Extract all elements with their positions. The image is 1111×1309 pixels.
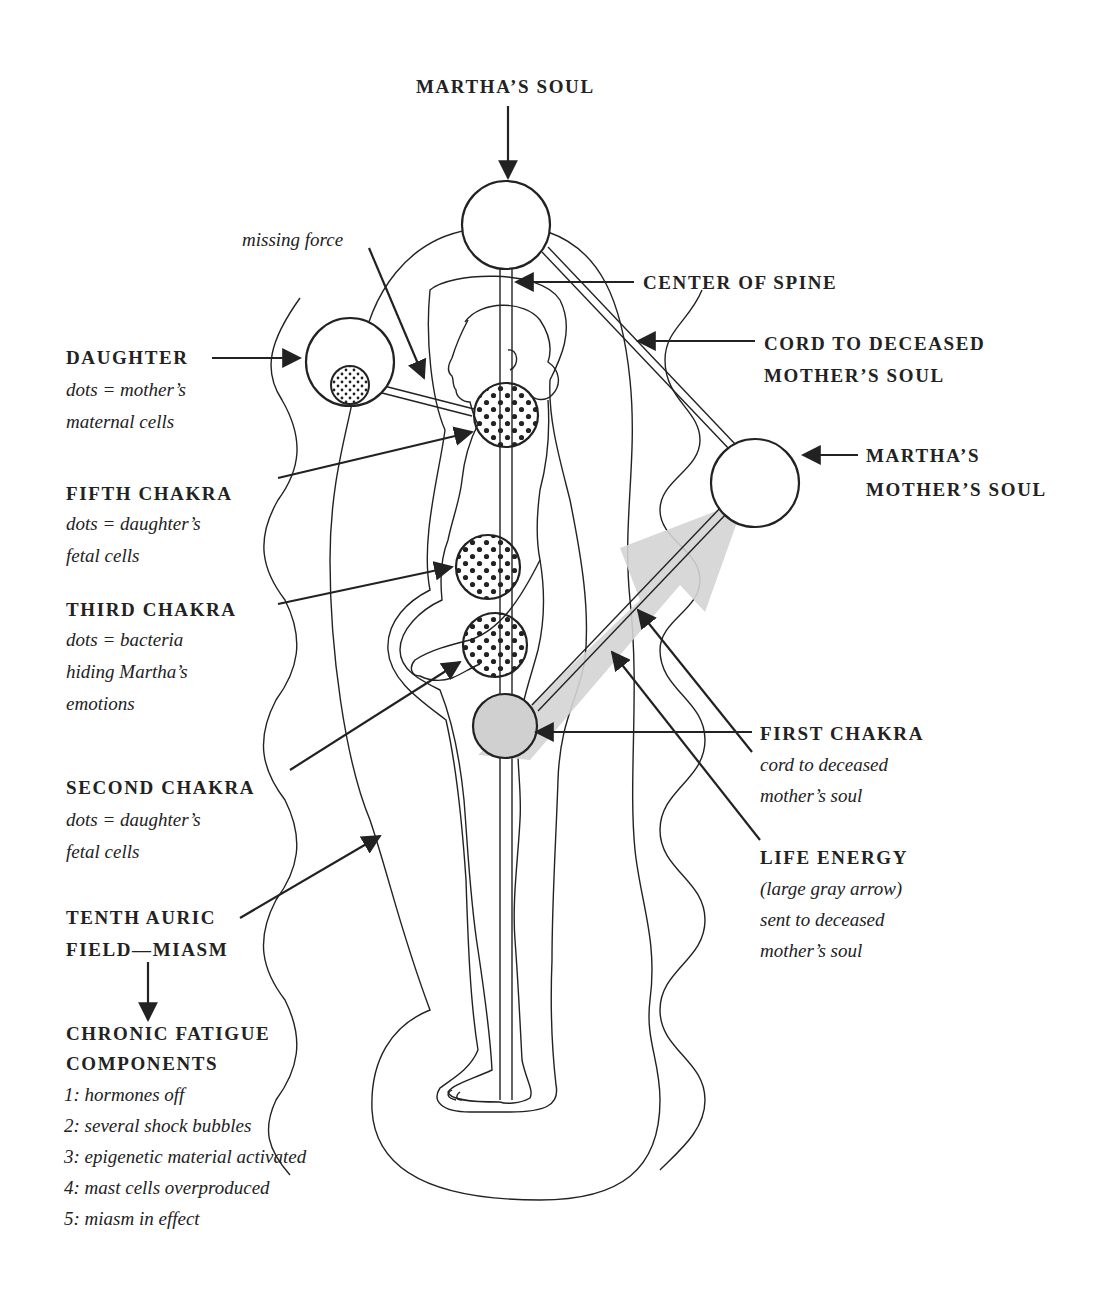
energy-body-diagram: MARTHA’S SOUL missing force CENTER OF SP… [0, 0, 1111, 1309]
arrow-life-energy [612, 652, 760, 840]
label-second-chakra-title: SECOND CHAKRA [66, 777, 255, 798]
label-first-chakra-title: FIRST CHAKRA [760, 723, 924, 744]
label-third-chakra-line2: hiding Martha’s [66, 661, 188, 682]
arrow-third-chakra [278, 567, 452, 604]
label-marthas-soul: MARTHA’S SOUL [416, 76, 595, 97]
arrow-second-chakra [290, 662, 460, 770]
label-second-chakra-line1: dots = daughter’s [66, 809, 201, 830]
label-fifth-chakra-line2: fetal cells [66, 545, 139, 566]
label-third-chakra-line1: dots = bacteria [66, 629, 183, 650]
second-chakra-dotted-circle [463, 613, 527, 677]
marthas-soul-circle [462, 181, 550, 269]
label-chronic-fatigue-line1: CHRONIC FATIGUE [66, 1023, 270, 1044]
arrow-tenth-auric-field [240, 836, 380, 918]
label-life-energy-line3: mother’s soul [760, 940, 862, 961]
label-cord-to-deceased-line2: MOTHER’S SOUL [764, 365, 945, 386]
chronic-fatigue-item-2: 2: several shock bubbles [64, 1115, 251, 1136]
chronic-fatigue-item-3: 3: epigenetic material activated [63, 1146, 307, 1167]
first-chakra-circle [473, 694, 537, 758]
label-first-chakra-line2: mother’s soul [760, 785, 862, 806]
chronic-fatigue-item-4: 4: mast cells overproduced [64, 1177, 270, 1198]
label-third-chakra-title: THIRD CHAKRA [66, 599, 237, 620]
front-body-outline [400, 424, 500, 1102]
label-tenth-auric-line1: TENTH AURIC [66, 907, 216, 928]
arrow-fifth-chakra [278, 432, 472, 478]
chronic-fatigue-item-5: 5: miasm in effect [64, 1208, 200, 1229]
label-life-energy-line1: (large gray arrow) [760, 878, 902, 900]
marthas-mothers-soul-circle [711, 439, 799, 527]
label-chronic-fatigue-line2: COMPONENTS [66, 1053, 218, 1074]
label-center-of-spine: CENTER OF SPINE [643, 272, 837, 293]
diagram-canvas: MARTHA’S SOUL missing force CENTER OF SP… [0, 0, 1111, 1309]
label-life-energy-title: LIFE ENERGY [760, 847, 908, 868]
label-second-chakra-line2: fetal cells [66, 841, 139, 862]
chronic-fatigue-item-1: 1: hormones off [64, 1084, 187, 1105]
label-fifth-chakra-title: FIFTH CHAKRA [66, 483, 232, 504]
label-third-chakra-line3: emotions [66, 693, 135, 714]
third-chakra-dotted-circle [456, 535, 520, 599]
label-cord-to-deceased-line1: CORD TO DECEASED [764, 333, 985, 354]
cord-daughter-to-fifth-chakra [382, 386, 474, 416]
label-fifth-chakra-line1: dots = daughter’s [66, 513, 201, 534]
outer-aura-right-wavy-line [660, 290, 705, 1170]
arrow-first-chakra-cord [638, 610, 752, 752]
label-tenth-auric-line2: FIELD—MIASM [66, 939, 228, 960]
label-first-chakra-line1: cord to deceased [760, 754, 889, 775]
label-missing-force: missing force [242, 229, 343, 250]
label-marthas-mother-line2: MOTHER’S SOUL [866, 479, 1047, 500]
fifth-chakra-dotted-circle [474, 383, 538, 447]
label-daughter-title: DAUGHTER [66, 347, 189, 368]
daughter-maternal-cells-dots [331, 366, 369, 404]
label-marthas-mother-line1: MARTHA’S [866, 445, 980, 466]
label-daughter-line1: dots = mother’s [66, 379, 186, 400]
label-life-energy-line2: sent to deceased [760, 909, 885, 930]
label-daughter-line2: maternal cells [66, 411, 174, 432]
